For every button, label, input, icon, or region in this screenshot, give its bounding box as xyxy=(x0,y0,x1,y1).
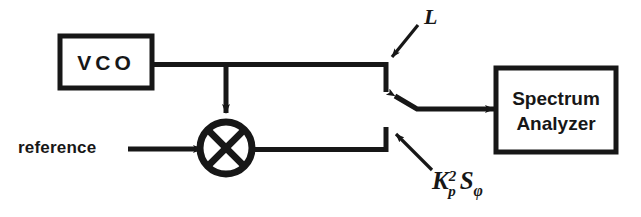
switch-pole-arrow[interactable] xyxy=(395,96,494,109)
reference-label: reference xyxy=(18,138,96,158)
block-diagram: VCO Spectrum Analyzer xyxy=(0,0,641,217)
kp2sphi-s-subscript: φ xyxy=(474,182,483,199)
spectrum-analyzer-label-line2: Analyzer xyxy=(516,113,596,134)
spectrum-analyzer-label-line1: Spectrum xyxy=(512,88,600,109)
l-label-leader-line xyxy=(392,25,418,57)
switch-to-analyzer-line[interactable] xyxy=(395,96,494,109)
diagram-canvas: VCO Spectrum Analyzer xyxy=(0,0,641,217)
kp2sphi-k-base: K xyxy=(432,167,449,194)
vco-block: VCO xyxy=(60,36,152,88)
vco-block-label: VCO xyxy=(77,51,135,74)
kp2sphi-k-subscript: p xyxy=(448,183,456,199)
spectrum-analyzer-outline xyxy=(496,68,616,152)
kp2sphi-label-leader-line xyxy=(396,134,432,170)
kp2sphi-label: K2pSφ xyxy=(432,168,483,196)
l-label: L xyxy=(424,4,437,30)
kp2sphi-k-superscript: 2 xyxy=(449,168,457,184)
spectrum-analyzer-block: Spectrum Analyzer xyxy=(496,68,616,152)
kp2sphi-s-base: S xyxy=(460,167,474,194)
mixer-symbol xyxy=(200,122,252,174)
